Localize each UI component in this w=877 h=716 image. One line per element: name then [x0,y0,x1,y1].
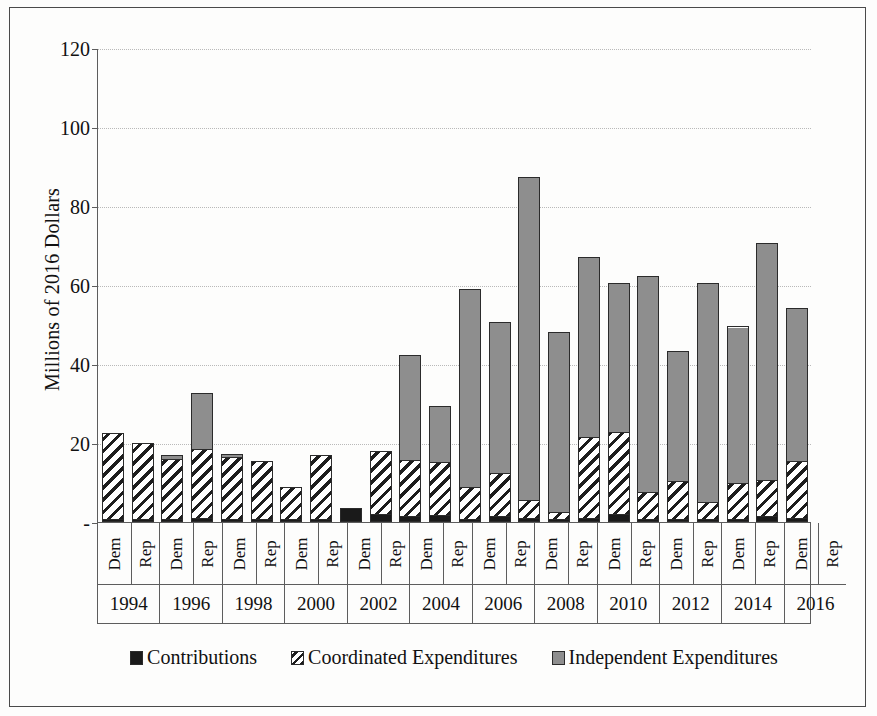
x-axis-year-label: 2004 [410,585,471,623]
bar-segment-coordinated [460,488,480,520]
bar-segment-independent [757,244,777,480]
x-axis-party-text: Rep [385,540,405,567]
x-axis-party-text: Rep [510,540,530,567]
y-axis-tick-label: 20 [70,433,90,456]
x-axis-party-text: Dem [229,537,249,570]
x-axis-party-row: DemRep [223,523,284,585]
bar-segment-coordinated [519,501,539,520]
bar-segment-contributions [519,519,539,521]
bar-2014-rep [727,326,749,522]
x-axis-party-label-dem: Dem [98,523,132,584]
x-axis-party-text: Rep [136,540,156,567]
bar-2012-dem [637,276,659,522]
x-axis-party-row: DemRep [535,523,596,585]
x-axis-year-cell: DemRep2002 [348,523,410,623]
legend-item-coordinated-expenditures: Coordinated Expenditures [291,646,517,669]
x-axis-party-text: Rep [635,540,655,567]
x-axis-party-row: DemRep [160,523,221,585]
x-axis-party-label-dem: Dem [473,523,507,584]
legend-item-contributions: Contributions [130,646,257,669]
bar-segment-contributions [430,516,450,521]
legend-swatch-coordinated-icon [291,651,304,665]
bar-segment-independent [400,356,420,461]
bar-segment-contributions [162,520,182,521]
x-axis-party-row: DemRep [660,523,721,585]
y-axis-tick-label: 120 [60,38,90,61]
bar-segment-coordinated [698,503,718,519]
x-axis-label-table: DemRep1994DemRep1996DemRep1998DemRep2000… [97,523,811,624]
legend-swatch-independent-icon [552,651,565,665]
bar-series [98,48,812,522]
x-axis-party-label-rep: Rep [507,523,534,584]
bar-segment-contributions [668,520,688,521]
x-axis-party-label-rep: Rep [257,523,284,584]
bar-2016-dem [756,243,778,522]
x-axis-year-cell: DemRep2006 [473,523,535,623]
x-axis-party-row: DemRep [285,523,346,585]
legend-item-independent-expenditures: Independent Expenditures [552,646,778,669]
bar-segment-coordinated [400,461,420,517]
bar-segment-independent [490,323,510,474]
x-axis-party-text: Dem [354,537,374,570]
x-axis-year-cell: DemRep2004 [410,523,472,623]
bar-segment-contributions [252,520,272,521]
x-axis-year-cell: DemRep1996 [160,523,222,623]
bar-2016-rep [786,308,808,522]
bar-2006-dem [459,289,481,522]
x-axis-party-text: Dem [729,537,749,570]
x-axis-party-label-rep: Rep [319,523,346,584]
bar-2004-rep [429,406,451,522]
y-axis-tick-label: 60 [70,275,90,298]
x-axis-party-label-dem: Dem [535,523,569,584]
bar-segment-independent [430,407,450,463]
bar-segment-coordinated [549,513,569,520]
bar-2012-rep [667,351,689,522]
bar-2002-dem [340,508,362,522]
x-axis-party-text: Dem [604,537,624,570]
x-axis-party-row: DemRep [785,523,846,585]
bar-segment-contributions [549,520,569,521]
bar-segment-coordinated [371,452,391,515]
x-axis-party-row: DemRep [410,523,471,585]
x-axis-year-label: 1994 [98,585,159,623]
x-axis-party-label-rep: Rep [819,523,846,584]
x-axis-party-label-dem: Dem [410,523,444,584]
x-axis-year-cell: DemRep2000 [285,523,347,623]
bar-segment-coordinated [192,450,212,520]
x-axis-party-label-rep: Rep [444,523,471,584]
bar-1996-dem [161,455,183,522]
bar-segment-coordinated [430,463,450,516]
x-axis-party-label-rep: Rep [132,523,159,584]
bar-segment-independent [460,290,480,488]
bar-segment-contributions [638,520,658,521]
x-axis-year-cell: DemRep2012 [660,523,722,623]
x-axis-year-cell: DemRep2016 [785,523,846,623]
x-axis-party-label-dem: Dem [160,523,194,584]
x-axis-party-row: DemRep [473,523,534,585]
x-axis-year-label: 2016 [785,585,846,623]
bar-1994-dem [102,433,124,522]
x-axis-party-row: DemRep [722,523,783,585]
x-axis-year-label: 2012 [660,585,721,623]
bar-segment-coordinated [638,493,658,520]
bar-segment-contributions [133,520,153,521]
bar-2000-rep [310,455,332,522]
x-axis-party-label-rep: Rep [694,523,721,584]
x-axis-party-text: Rep [823,540,843,567]
bar-segment-coordinated [133,444,153,521]
legend-swatch-contributions-icon [130,651,143,665]
x-axis-party-row: DemRep [598,523,659,585]
x-axis-party-text: Dem [542,537,562,570]
bar-2008-dem [518,177,540,522]
bar-segment-independent [609,284,629,432]
x-axis-party-text: Dem [791,537,811,570]
bar-2008-rep [548,332,570,522]
x-axis-party-text: Rep [448,540,468,567]
bar-2000-dem [280,487,302,522]
bar-2002-rep [370,451,392,522]
x-axis-year-cell: DemRep2014 [722,523,784,623]
bar-segment-coordinated [103,434,123,520]
y-axis-tick-label: 100 [60,117,90,140]
x-axis-year-label: 2010 [598,585,659,623]
bar-segment-independent [787,309,807,462]
